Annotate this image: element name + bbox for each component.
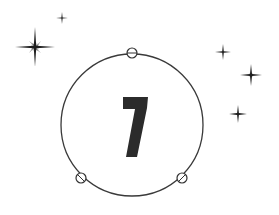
- sparkle-right-1-icon: [215, 44, 231, 60]
- sparkle-right-2-icon: [240, 64, 262, 86]
- sparkle-right-3-icon: [229, 105, 247, 123]
- small-sparkle-top-icon: [56, 12, 68, 24]
- illustration: 7: [0, 0, 279, 215]
- large-sparkle-icon: [15, 27, 55, 67]
- bottom-left-marker-icon: [76, 173, 86, 183]
- number-badge-graphic: 7: [0, 0, 279, 215]
- top-marker-icon: [127, 48, 137, 58]
- number-seven: 7: [0, 0, 148, 157]
- bottom-right-marker-icon: [177, 173, 187, 183]
